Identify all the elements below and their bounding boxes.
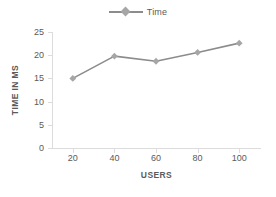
x-tick-label: 40 [94,153,134,163]
y-axis-line [52,32,53,149]
y-axis-title-text: TIME IN MS [10,65,20,115]
y-tick-mark [48,125,52,126]
data-point-marker [153,58,160,65]
x-tick-label: 100 [219,153,259,163]
y-tick-label: 15 [22,73,44,83]
y-tick-mark [48,32,52,33]
legend-item-time[interactable]: Time [109,6,167,18]
y-tick-label: 5 [22,120,44,130]
data-point-marker [236,40,243,47]
series-line-time [73,43,239,78]
y-tick-mark [48,102,52,103]
chart-legend: Time [0,4,276,20]
line-chart: Time TIME IN MS 0510152025 20406080100 U… [0,0,276,197]
x-axis-title-text: USERS [141,170,172,180]
y-tick-label: 25 [22,27,44,37]
data-point-marker [194,49,201,56]
series-markers-time [69,40,242,82]
y-tick-label: 20 [22,50,44,60]
legend-label-time: Time [147,7,167,17]
data-point-marker [111,53,118,60]
x-tick-label: 80 [178,153,218,163]
y-tick-label: 0 [22,143,44,153]
y-tick-mark [48,78,52,79]
x-tick-label: 20 [53,153,93,163]
x-tick-label: 60 [136,153,176,163]
y-tick-mark [48,55,52,56]
data-point-marker [69,75,76,82]
x-axis-title: USERS [52,170,261,180]
y-axis-title: TIME IN MS [8,50,22,130]
y-tick-mark [48,148,52,149]
y-tick-label: 10 [22,97,44,107]
legend-line-marker-icon [109,6,143,18]
